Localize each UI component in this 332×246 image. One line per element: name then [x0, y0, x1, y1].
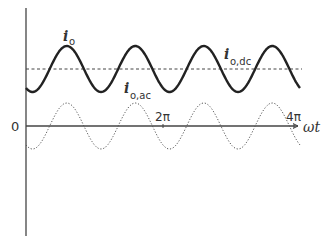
- label-i-o-main: i: [63, 28, 68, 44]
- tick-label-2pi: 2π: [155, 110, 170, 124]
- label-i-o-dc-main: i: [224, 46, 229, 62]
- label-i-o: i o: [63, 28, 75, 47]
- label-i-o-sub: o: [69, 36, 75, 47]
- label-i-o-ac-sub: o,ac: [130, 90, 151, 101]
- label-i-o-dc-sub: o,dc: [230, 56, 251, 67]
- waveform-diagram: 0 2π 4π ωt i o i o,dc i o,ac: [0, 0, 332, 246]
- tick-label-4pi: 4π: [286, 110, 301, 124]
- label-i-o-ac: i o,ac: [124, 80, 151, 101]
- x-axis-label: ωt: [303, 119, 320, 135]
- label-i-o-dc: i o,dc: [224, 46, 251, 67]
- label-i-o-ac-main: i: [124, 80, 129, 96]
- origin-label: 0: [11, 119, 19, 134]
